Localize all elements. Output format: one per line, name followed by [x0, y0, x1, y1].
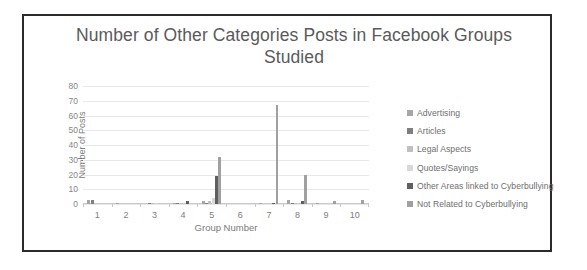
x-tick-label: 8	[295, 210, 300, 220]
y-tick-label: 10	[69, 184, 78, 194]
bar	[259, 203, 262, 204]
legend-label: Quotes/Sayings	[417, 163, 478, 173]
x-tick-mark	[112, 204, 113, 207]
x-tick-mark	[140, 204, 141, 207]
bar	[180, 203, 183, 204]
legend-swatch-icon	[407, 183, 413, 189]
bar	[218, 157, 221, 204]
x-tick-mark	[197, 204, 198, 207]
x-tick-mark	[255, 204, 256, 207]
x-tick-label: 2	[123, 210, 128, 220]
gridline	[83, 189, 369, 190]
legend-label: Not Related to Cyberbullying	[417, 199, 528, 209]
legend-label: Advertising	[417, 108, 460, 118]
figure-border: Number of Other Categories Posts in Face…	[22, 14, 552, 252]
x-tick-mark	[312, 204, 313, 207]
legend-item[interactable]: Not Related to Cyberbullying	[407, 195, 557, 213]
bar	[361, 200, 364, 204]
x-tick-mark	[283, 204, 284, 207]
x-tick-label: 1	[95, 210, 100, 220]
x-tick-label: 9	[324, 210, 329, 220]
chart-legend: AdvertisingArticlesLegal AspectsQuotes/S…	[407, 104, 557, 213]
x-tick-label: 4	[181, 210, 186, 220]
y-tick-label: 80	[69, 81, 78, 91]
legend-item[interactable]: Quotes/Sayings	[407, 159, 557, 177]
gridline	[83, 145, 369, 146]
legend-swatch-icon	[407, 165, 413, 171]
gridline	[83, 175, 369, 176]
gridline	[83, 101, 369, 102]
y-tick-label: 60	[69, 111, 78, 121]
plot-area: 80706050403020100 12345678910	[83, 86, 369, 204]
bar	[294, 203, 297, 204]
legend-swatch-icon	[407, 146, 413, 152]
legend-item[interactable]: Legal Aspects	[407, 140, 557, 158]
legend-swatch-icon	[407, 110, 413, 116]
bar	[116, 203, 119, 204]
bar	[155, 203, 158, 204]
y-tick-label: 30	[69, 155, 78, 165]
x-tick-mark	[340, 204, 341, 207]
bar	[276, 105, 279, 204]
legend-label: Other Areas linked to Cyberbullying	[417, 181, 553, 191]
bar	[304, 175, 307, 205]
y-tick-label: 70	[69, 96, 78, 106]
x-tick-mark	[368, 204, 369, 207]
x-tick-label: 10	[350, 210, 360, 220]
gridline	[83, 130, 369, 131]
x-tick-label: 3	[152, 210, 157, 220]
x-tick-label: 6	[238, 210, 243, 220]
bar	[333, 201, 336, 204]
gridline	[83, 116, 369, 117]
x-tick-mark	[226, 204, 227, 207]
gridline	[83, 160, 369, 161]
y-tick-label: 0	[73, 199, 78, 209]
chart-canvas: Number of Other Categories Posts in Face…	[24, 16, 550, 250]
legend-swatch-icon	[407, 128, 413, 134]
bar	[91, 200, 94, 204]
x-tick-label: 5	[209, 210, 214, 220]
x-tick-mark	[83, 204, 84, 207]
bar	[316, 203, 319, 204]
legend-item[interactable]: Other Areas linked to Cyberbullying	[407, 177, 557, 195]
y-tick-label: 40	[69, 140, 78, 150]
y-tick-label: 50	[69, 125, 78, 135]
legend-label: Articles	[417, 126, 446, 136]
legend-swatch-icon	[407, 201, 413, 207]
x-tick-label: 7	[266, 210, 271, 220]
gridline	[83, 86, 369, 87]
legend-label: Legal Aspects	[417, 144, 471, 154]
chart-title: Number of Other Categories Posts in Face…	[64, 24, 524, 68]
bar	[186, 201, 189, 204]
legend-item[interactable]: Articles	[407, 122, 557, 140]
y-tick-label: 20	[69, 170, 78, 180]
x-tick-mark	[169, 204, 170, 207]
x-axis-title: Group Number	[83, 222, 369, 233]
legend-item[interactable]: Advertising	[407, 104, 557, 122]
